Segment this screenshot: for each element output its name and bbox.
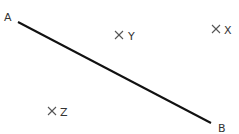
cross-mark-icon [48, 107, 56, 115]
label-b: B [218, 122, 226, 134]
cross-mark-icon [115, 31, 123, 39]
label-a: A [4, 11, 12, 24]
diagram-canvas: A B Y X Z [0, 0, 239, 134]
label-z: Z [60, 106, 68, 119]
point-z: Z [48, 106, 68, 119]
label-x: X [224, 24, 232, 37]
segment-ab [18, 22, 211, 123]
point-x: X [212, 24, 232, 37]
label-y: Y [127, 30, 135, 43]
cross-mark-icon [212, 25, 220, 33]
point-y: Y [115, 30, 135, 43]
diagram-svg: A B Y X Z [0, 0, 239, 134]
